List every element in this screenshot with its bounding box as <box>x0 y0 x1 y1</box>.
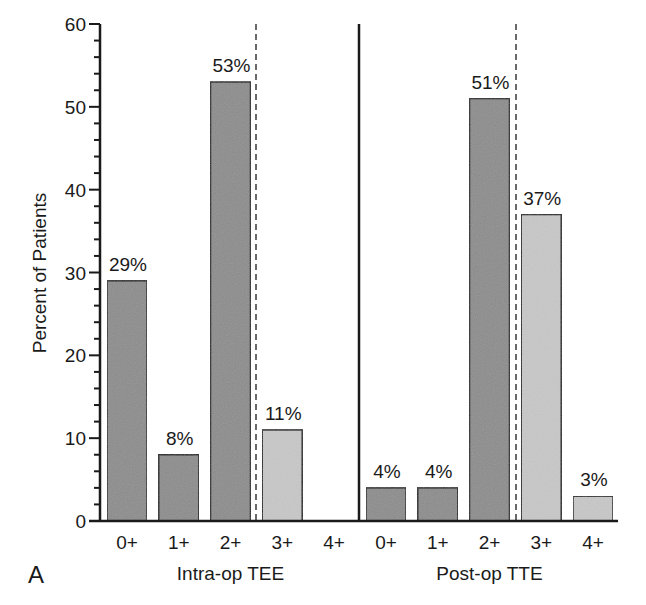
category-label: 0+ <box>116 532 138 553</box>
y-tick-label: 50 <box>65 97 86 118</box>
group-label: Post-op TTE <box>436 563 542 584</box>
y-tick-label: 0 <box>75 511 86 532</box>
y-tick-label: 60 <box>65 14 86 35</box>
bar-value-label: 8% <box>166 428 194 449</box>
bar <box>262 430 302 521</box>
bar-value-label: 4% <box>425 461 453 482</box>
bar <box>573 496 613 521</box>
bar-value-label: 4% <box>373 461 401 482</box>
bar <box>211 82 251 521</box>
bar <box>366 488 406 521</box>
y-axis-ticks: 0102030405060 <box>65 14 100 532</box>
bar <box>521 215 561 521</box>
bar-value-label: 53% <box>212 55 250 76</box>
bar-value-label: 29% <box>109 254 147 275</box>
y-tick-label: 10 <box>65 428 86 449</box>
y-tick-label: 40 <box>65 180 86 201</box>
category-label: 2+ <box>479 532 501 553</box>
y-tick-label: 20 <box>65 345 86 366</box>
bar-value-label: 3% <box>580 469 608 490</box>
bar-value-label: 51% <box>471 72 509 93</box>
bar <box>159 455 199 521</box>
bar-value-label: 11% <box>265 403 302 424</box>
category-label: 4+ <box>582 532 604 553</box>
category-label: 1+ <box>427 532 449 553</box>
category-label: 1+ <box>168 532 190 553</box>
y-axis-title: Percent of Patients <box>29 193 50 354</box>
category-label: 0+ <box>375 532 397 553</box>
bar <box>418 488 458 521</box>
category-label: 3+ <box>530 532 552 553</box>
bar <box>470 99 510 521</box>
bar-chart: 0102030405060 29%0+8%1+53%2+11%3+4+Intra… <box>0 0 646 605</box>
y-tick-label: 30 <box>65 263 86 284</box>
category-label: 2+ <box>220 532 242 553</box>
category-label: 3+ <box>271 532 293 553</box>
bar <box>107 281 147 521</box>
group-label: Intra-op TEE <box>177 563 284 584</box>
bar-value-label: 37% <box>523 188 561 209</box>
category-label: 4+ <box>323 532 345 553</box>
panel-letter: A <box>28 561 44 588</box>
